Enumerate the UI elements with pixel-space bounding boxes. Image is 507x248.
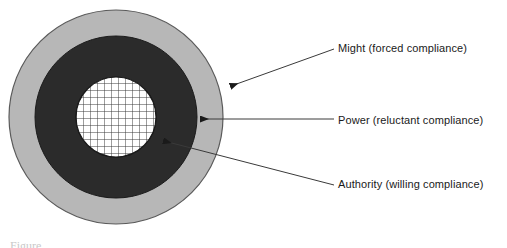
callout-label-power: Power (reluctant compliance) (338, 114, 483, 127)
figure-canvas: Might (forced compliance) Power (relucta… (0, 0, 507, 248)
leader-line-might (231, 49, 334, 86)
callout-label-authority: Authority (willing compliance) (338, 178, 483, 191)
callout-label-might: Might (forced compliance) (338, 42, 467, 55)
figure-caption-fragment: Figure (10, 239, 230, 248)
